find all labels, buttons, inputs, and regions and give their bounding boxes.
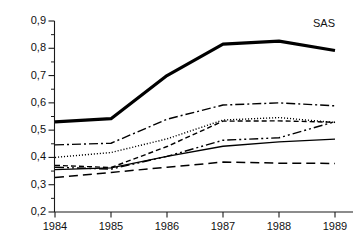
series-line-series-7 — [55, 162, 335, 178]
x-axis-tick-label: 1986 — [142, 220, 192, 232]
x-axis-tick-label: 1984 — [30, 220, 80, 232]
series-line-series-5 — [55, 122, 335, 169]
y-axis-tick-label: 0,8 — [6, 41, 46, 53]
y-axis-tick-label: 0,9 — [6, 14, 46, 26]
chart-container: 0,90,80,70,60,50,40,30,2 198419851986198… — [0, 0, 359, 244]
y-axis-tick-label: 0,7 — [6, 69, 46, 81]
x-axis-tick-label: 1987 — [198, 220, 248, 232]
x-axis-tick-label: 1985 — [86, 220, 136, 232]
line-chart-plot — [0, 0, 359, 244]
y-axis-tick-label: 0,4 — [6, 150, 46, 162]
y-axis-tick-label: 0,5 — [6, 123, 46, 135]
y-axis-tick-label: 0,3 — [6, 178, 46, 190]
y-axis-tick-label: 0,6 — [6, 96, 46, 108]
chart-series-layer — [55, 41, 335, 177]
x-axis-tick-label: 1989 — [310, 220, 359, 232]
series-line-series-2 — [55, 103, 335, 145]
series-line-SAS — [55, 41, 335, 122]
x-axis-tick-label: 1988 — [254, 220, 304, 232]
y-axis-tick-label: 0,2 — [6, 205, 46, 217]
series-label-sas: SAS — [313, 17, 335, 29]
